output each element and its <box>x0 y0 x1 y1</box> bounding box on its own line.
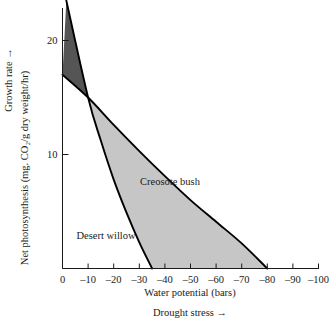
x-tick-label-2: –20 <box>105 274 122 285</box>
x-tick-label-5: –50 <box>182 274 199 285</box>
x-tick-label-3: –30 <box>130 274 147 285</box>
series-label-creosote-bush: Creosote bush <box>140 176 201 187</box>
x-tick-label-9: –90 <box>284 274 301 285</box>
x-tick-label-10: –100 <box>307 274 329 285</box>
series-label-desert-willow: Desert willow <box>76 230 136 241</box>
y-tick-label-1: 20 <box>47 35 58 46</box>
x-tick-label-8: –80 <box>258 274 275 285</box>
y-axis-title: Net photosynthesis (mg. CO₂/g dry weight… <box>19 70 31 265</box>
chart-svg: 0–10–20–30–40–50–60–70–80–90–100 1020 Wa… <box>0 0 332 326</box>
x-tick-label-7: –70 <box>233 274 250 285</box>
x-tick-label-6: –60 <box>207 274 224 285</box>
y-tick-label-0: 10 <box>47 149 58 160</box>
y-axis-subtitle: Growth rate → <box>3 48 14 112</box>
x-axis-subtitle: Drought stress → <box>153 307 227 318</box>
x-tick-label-0: 0 <box>60 274 65 285</box>
x-tick-label-1: –10 <box>79 274 96 285</box>
chart-figure: 0–10–20–30–40–50–60–70–80–90–100 1020 Wa… <box>0 0 332 326</box>
x-tick-label-4: –40 <box>156 274 173 285</box>
x-axis-title: Water potential (bars) <box>144 287 236 299</box>
